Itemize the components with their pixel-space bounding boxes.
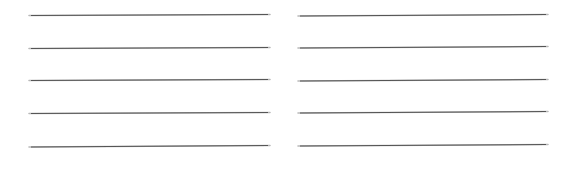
rules-column-right: [284, 0, 568, 187]
rule-line-left-5: [0, 143, 284, 147]
rule-line-right-1-stroke: [284, 12, 568, 16]
rule-line-left-1-stroke: [0, 12, 284, 16]
rule-line-left-3: [0, 77, 284, 81]
rule-line-right-3: [284, 77, 568, 81]
rule-line-left-2-stroke: [0, 45, 284, 49]
rule-line-right-5: [284, 142, 568, 146]
rule-line-right-4-stroke: [284, 109, 568, 113]
rule-line-right-1: [284, 12, 568, 16]
rule-line-left-1: [0, 12, 284, 16]
rule-line-left-2: [0, 45, 284, 49]
rule-line-right-2-stroke: [284, 44, 568, 48]
rule-line-left-5-stroke: [0, 143, 284, 147]
rule-line-right-3-stroke: [284, 77, 568, 81]
rule-line-right-4: [284, 109, 568, 113]
rule-line-left-4: [0, 110, 284, 114]
rule-line-left-3-stroke: [0, 77, 284, 81]
rule-line-right-2: [284, 44, 568, 48]
rules-column-left: [0, 0, 284, 187]
rule-line-right-5-stroke: [284, 142, 568, 146]
rule-line-left-4-stroke: [0, 110, 284, 114]
page-canvas: [0, 0, 568, 187]
